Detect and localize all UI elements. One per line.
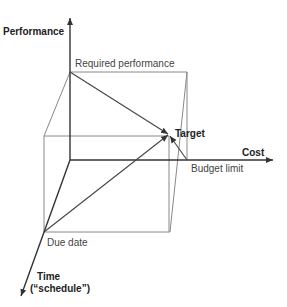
- target-label: Target: [175, 128, 205, 139]
- required-performance-label: Required performance: [75, 58, 175, 69]
- performance-axis-label: Performance: [3, 26, 64, 37]
- time-axis-label: Time: [37, 271, 60, 282]
- cube-edges: [44, 72, 187, 232]
- cost-axis-label: Cost: [242, 147, 264, 158]
- due-date-label: Due date: [47, 237, 88, 248]
- time-axis-sublabel: (“schedule”): [30, 283, 90, 294]
- budget-limit-label: Budget limit: [191, 163, 243, 174]
- target-vectors: [44, 72, 187, 232]
